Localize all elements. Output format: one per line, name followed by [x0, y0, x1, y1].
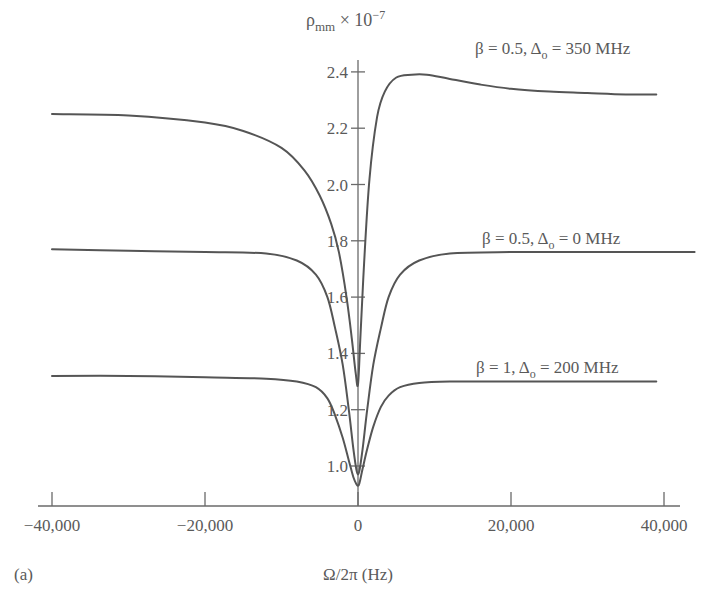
x-tick-label: 0: [354, 516, 363, 535]
x-tick-label: −40,000: [24, 516, 80, 535]
y-tick-label: 1.4: [327, 344, 349, 363]
series-label-0mhz: β = 0.5, Δo = 0 MHz: [482, 229, 621, 252]
y-tick-label: 1.0: [327, 457, 348, 476]
y-tick-label: 2.0: [327, 176, 348, 195]
x-axis-label: Ω/2π (Hz): [323, 565, 393, 584]
y-tick-label: 2.2: [327, 119, 348, 138]
y-axis-label: ρmm × 10−7: [306, 8, 385, 34]
x-tick-label: −20,000: [177, 516, 233, 535]
y-ticks: 1.01.21.41.61.82.02.22.4: [327, 63, 365, 476]
y-tick-label: 2.4: [327, 63, 349, 82]
x-ticks: −40,000−20,000020,00040,000: [24, 492, 688, 535]
x-tick-label: 40,000: [641, 516, 688, 535]
series-curve-200mhz: [52, 376, 656, 486]
series-label-350mhz: β = 0.5, Δo = 350 MHz: [475, 39, 631, 62]
chart-canvas: −40,000−20,000020,00040,000 1.01.21.41.6…: [0, 0, 706, 595]
data-curves: [52, 74, 695, 486]
panel-label: (a): [14, 565, 33, 584]
x-tick-label: 20,000: [488, 516, 535, 535]
series-label-200mhz: β = 1, Δo = 200 MHz: [476, 358, 619, 381]
